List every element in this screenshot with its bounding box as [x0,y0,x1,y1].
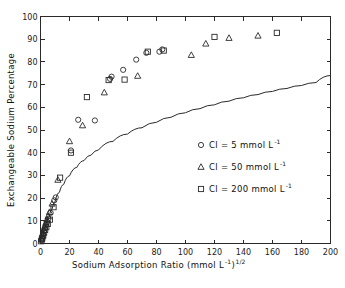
y-tick-label: 30 [27,171,37,180]
x-tick-label: 160 [265,248,280,257]
x-axis-title-text: Sodium Adsorption Ratio (mmol L [72,260,224,270]
legend-item-superscript: -1 [286,182,292,189]
data-point-square [198,186,203,191]
data-point-square [84,94,89,99]
x-tick-label: 140 [236,248,251,257]
data-point-circle [134,57,139,62]
legend-item-label: Cl = 200 mmol L [209,184,285,194]
y-tick-label: 20 [27,194,37,203]
y-tick-label: 0 [32,240,37,249]
y-tick-label: 90 [27,35,37,44]
data-point-triangle [198,164,204,170]
y-tick-label: 70 [27,81,37,90]
data-point-triangle [188,52,194,58]
legend-item: Cl = 5 mmol L-1 [198,138,280,150]
y-tick-label: 50 [27,126,37,135]
data-point-circle [121,67,126,72]
x-axis-title: Sodium Adsorption Ratio (mmol L -1 ) 1/2 [72,258,245,270]
x-axis-ticks: 020406080100120140160180200 [38,17,338,257]
legend-item: Cl = 200 mmol L-1 [198,182,292,194]
y-axis-title: Exchangeable Sodium Percentage [6,53,16,207]
y-tick-label: 10 [27,217,37,226]
data-point-triangle [226,35,232,41]
y-axis-title-text: Exchangeable Sodium Percentage [6,53,16,207]
series-cl-5-markers [39,47,165,243]
legend: Cl = 5 mmol L-1Cl = 50 mmol L-1Cl = 200 … [198,138,292,194]
data-point-triangle [66,138,72,144]
y-tick-label: 100 [22,13,37,22]
legend-item: Cl = 50 mmol L-1 [198,160,286,172]
x-tick-label: 0 [38,248,43,257]
x-tick-label: 200 [323,248,338,257]
data-point-triangle [255,33,261,39]
x-tick-label: 60 [122,248,132,257]
series-cl-50-markers [39,33,262,242]
legend-item-label: Cl = 5 mmol L [209,140,273,150]
data-point-square [122,77,127,82]
x-tick-label: 80 [151,248,161,257]
data-point-triangle [135,73,141,79]
x-tick-label: 40 [93,248,103,257]
legend-item-superscript: -1 [280,160,286,167]
x-axis-title-sup-inverse: -1 [225,258,231,265]
legend-item-superscript: -1 [274,138,280,145]
chart-figure: 020406080100120140160180200 010203040506… [0,0,345,288]
data-point-circle [198,142,203,147]
plot-frame [41,17,331,244]
data-point-triangle [101,89,107,95]
x-tick-label: 180 [294,248,309,257]
data-point-triangle [79,122,85,128]
model-curve-group [41,76,331,244]
x-tick-label: 20 [64,248,74,257]
legend-item-label: Cl = 50 mmol L [209,162,279,172]
y-tick-label: 60 [27,103,37,112]
x-axis-title-paren: ) [232,260,236,270]
series-cl-200-markers [39,30,280,244]
data-point-circle [92,118,97,123]
data-point-triangle [203,40,209,46]
y-axis-ticks: 0102030405060708090100 [22,13,330,249]
data-point-square [274,30,279,35]
y-tick-label: 40 [27,149,37,158]
x-axis-title-sup-half: 1/2 [236,258,246,265]
y-tick-label: 80 [27,58,37,67]
x-tick-label: 120 [207,248,222,257]
x-tick-label: 100 [178,248,193,257]
data-point-square [212,34,217,39]
data-point-circle [76,117,81,122]
scatter-plot-canvas: 020406080100120140160180200 010203040506… [0,0,345,288]
